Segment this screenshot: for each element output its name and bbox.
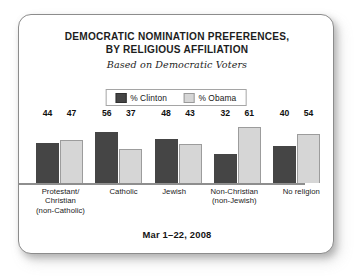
bar-group: 5637: [95, 119, 142, 183]
category-label: Jewish: [162, 187, 186, 215]
bar-value-label: 47: [67, 109, 77, 118]
chart-title-line-2: BY RELIGIOUS AFFILIATION: [19, 44, 335, 57]
category-labels: Protestant/Christian(non-Catholic)Cathol…: [36, 187, 320, 215]
legend-label-obama: % Obama: [198, 93, 236, 103]
bar-obama: [119, 149, 142, 183]
bar-column: 32: [214, 119, 237, 183]
bar-column: 44: [36, 119, 59, 183]
bar-value-label: 56: [102, 109, 112, 118]
category-label-line: (non-Jewish): [210, 196, 258, 205]
chart-legend: % Clinton % Obama: [106, 89, 247, 106]
bar-column: 47: [60, 119, 83, 183]
category-label-line: No religion: [283, 187, 320, 196]
bar-column: 37: [119, 119, 142, 183]
bar-groups: 44475637484332614054: [36, 119, 320, 183]
category-label-line: Catholic: [109, 187, 137, 196]
chart-subtitle: Based on Democratic Voters: [19, 59, 335, 70]
bar-obama: [297, 134, 320, 183]
category-label-line: Jewish: [162, 187, 186, 196]
bar-group: 4054: [273, 119, 320, 183]
bar-group: 4447: [36, 119, 83, 183]
bar-clinton: [36, 143, 59, 183]
bar-column: 54: [297, 119, 320, 183]
chart-footnote: Mar 1–22, 2008: [19, 229, 335, 240]
legend-label-clinton: % Clinton: [130, 93, 167, 103]
legend-item-obama: % Obama: [184, 93, 236, 103]
bar-group: 4843: [155, 119, 202, 183]
category-label-line: Christian: [36, 196, 85, 205]
category-label: Protestant/Christian(non-Catholic): [36, 187, 85, 215]
bar-column: 56: [95, 119, 118, 183]
obama-swatch-icon: [184, 93, 195, 103]
clinton-swatch-icon: [116, 93, 127, 103]
bar-column: 61: [238, 119, 261, 183]
category-label-line: Protestant/: [36, 187, 85, 196]
bar-value-label: 54: [304, 109, 314, 118]
plot-area: 44475637484332614054: [36, 119, 320, 183]
bar-value-label: 44: [43, 109, 53, 118]
screenshot-root: DEMOCRATIC NOMINATION PREFERENCES, BY RE…: [0, 0, 354, 278]
category-label-line: Non-Christian: [210, 187, 258, 196]
bar-column: 43: [179, 119, 202, 183]
chart-card: DEMOCRATIC NOMINATION PREFERENCES, BY RE…: [18, 14, 334, 254]
bar-value-label: 40: [280, 109, 290, 118]
bar-value-label: 43: [185, 109, 195, 118]
chart-title-line-1: DEMOCRATIC NOMINATION PREFERENCES,: [19, 31, 335, 44]
bar-group: 3261: [214, 119, 261, 183]
category-label: No religion: [283, 187, 320, 215]
bar-value-label: 37: [126, 109, 136, 118]
bar-value-label: 48: [161, 109, 171, 118]
bar-obama: [179, 144, 202, 183]
legend-item-clinton: % Clinton: [116, 93, 167, 103]
bar-clinton: [273, 146, 296, 183]
bar-value-label: 32: [220, 109, 230, 118]
category-label: Catholic: [109, 187, 137, 215]
category-label: Non-Christian(non-Jewish): [210, 187, 258, 215]
x-axis-line: [19, 183, 305, 185]
bar-obama: [238, 127, 261, 183]
bar-column: 40: [273, 119, 296, 183]
title-block: DEMOCRATIC NOMINATION PREFERENCES, BY RE…: [19, 31, 335, 70]
bar-clinton: [155, 139, 178, 183]
category-label-line: (non-Catholic): [36, 206, 85, 215]
bar-obama: [60, 140, 83, 183]
bar-value-label: 61: [244, 109, 254, 118]
bar-clinton: [95, 132, 118, 183]
bar-clinton: [214, 154, 237, 183]
bar-column: 48: [155, 119, 178, 183]
